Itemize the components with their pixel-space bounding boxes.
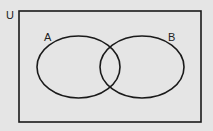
universe-label: U	[6, 9, 14, 21]
venn-diagram: U A B	[0, 0, 213, 131]
set-b-label: B	[168, 31, 175, 43]
venn-svg: U A B	[0, 0, 213, 131]
set-a-label: A	[44, 31, 52, 43]
universe-rectangle	[19, 11, 201, 122]
set-b-ellipse	[100, 36, 184, 98]
set-a-ellipse	[37, 36, 120, 98]
